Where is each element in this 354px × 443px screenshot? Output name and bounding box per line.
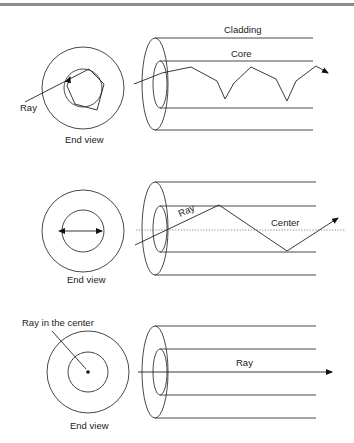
cladding-end	[142, 38, 168, 130]
panel-meridional-ray: End view Ray Center	[42, 182, 346, 285]
core-end	[153, 206, 167, 252]
panel-axial-ray: Ray in the center End view Ray	[22, 317, 332, 431]
core-label: Core	[231, 48, 252, 59]
end-view-2	[42, 190, 124, 272]
end-view-label: End view	[67, 274, 106, 285]
end-view-3	[47, 331, 129, 413]
fiber-diagram: Ray End view Cladding Core End view	[0, 0, 354, 443]
incoming-ray	[25, 69, 89, 102]
top-border	[0, 3, 354, 6]
leader-line	[52, 331, 86, 369]
center-ray-dot	[86, 370, 90, 374]
core-circle	[64, 69, 102, 107]
fiber-side-view-3	[138, 326, 332, 418]
cladding-end	[142, 182, 168, 275]
cladding-circle	[42, 47, 124, 129]
panel-skew-ray: Ray End view Cladding Core	[20, 24, 328, 145]
end-view-label: End view	[65, 134, 104, 145]
core-end	[153, 61, 167, 108]
fiber-side-view-2	[135, 182, 346, 275]
end-view-label: End view	[70, 420, 109, 431]
ray-label: Ray	[176, 202, 196, 219]
zigzag-ray	[134, 66, 328, 101]
ray-in-center-label: Ray in the center	[22, 317, 94, 328]
center-label: Center	[271, 217, 300, 228]
ray-label: Ray	[20, 102, 37, 113]
end-view-1	[25, 47, 124, 129]
ray-label: Ray	[236, 357, 253, 368]
cladding-label: Cladding	[224, 24, 262, 35]
